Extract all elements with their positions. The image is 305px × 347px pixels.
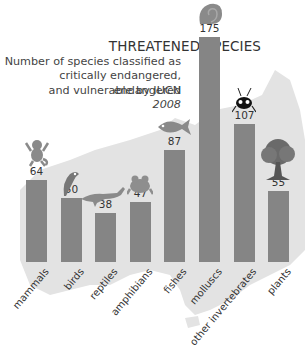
bar-plants	[268, 191, 289, 262]
bar-molluscs	[199, 37, 220, 262]
chart-year: 2008	[0, 98, 181, 113]
frog-icon	[127, 175, 153, 199]
fish-icon	[156, 117, 192, 141]
chart-title: THREATENED SPECIES	[0, 38, 261, 54]
parrot-icon	[60, 170, 80, 202]
crocodile-icon	[81, 185, 127, 211]
bar-fishes	[164, 150, 185, 262]
bar-reptiles	[95, 213, 116, 262]
snail-shell-icon	[197, 2, 223, 30]
monkey-icon	[24, 137, 50, 171]
bar-amphibians	[130, 202, 151, 262]
bar-other-invertebrates	[234, 124, 255, 262]
chart-subtitle-line-1: Number of species classified as	[0, 55, 181, 70]
insect-icon	[232, 88, 256, 118]
chart-subtitle-line-3: and vulnerable by IUCN	[0, 84, 181, 99]
bar-birds	[61, 198, 82, 262]
bar-mammals	[26, 180, 47, 262]
tree-icon	[260, 138, 296, 186]
